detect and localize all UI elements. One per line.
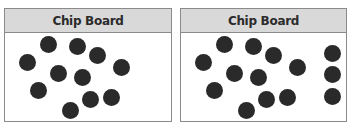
- chip-board-2-title: Chip Board: [181, 9, 346, 33]
- chip-board-1-chip: [30, 82, 47, 99]
- chip-board-2-chip: [216, 36, 233, 53]
- chip-board-1-chip: [74, 69, 91, 86]
- chip-board-2-chip: [206, 82, 223, 99]
- chip-board-1-chip: [82, 91, 99, 108]
- chip-board-2-chip: [250, 69, 267, 86]
- chip-board-2-chip: [279, 89, 296, 106]
- chip-board-1-chip: [89, 47, 106, 64]
- chip-board-2-chip: [226, 65, 243, 82]
- chip-board-1-chip: [62, 102, 79, 119]
- chip-board-2-chip: [245, 38, 262, 55]
- chip-board-1-chip: [19, 54, 36, 71]
- chip-board-2-chip: [258, 91, 275, 108]
- chip-board-1-chip: [40, 36, 57, 53]
- chip-board-2-chip: [195, 54, 212, 71]
- chip-board-2-chip: [324, 45, 341, 62]
- chip-board-1-chip: [103, 89, 120, 106]
- chip-board-1-title: Chip Board: [5, 9, 171, 33]
- chip-board-1-chip: [69, 38, 86, 55]
- chip-board-1-chip: [113, 59, 130, 76]
- chip-board-2-chip: [324, 66, 341, 83]
- chip-board-2-chip: [324, 88, 341, 105]
- chip-board-2-chip: [289, 59, 306, 76]
- chip-board-2-chip: [238, 102, 255, 119]
- chip-board-1-chip: [50, 65, 67, 82]
- chip-board-2-chip: [265, 47, 282, 64]
